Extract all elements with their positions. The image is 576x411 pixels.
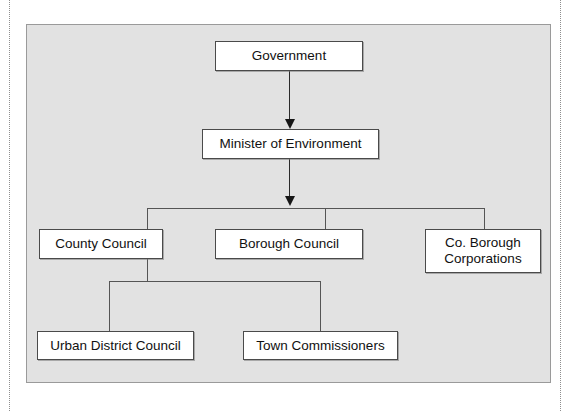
connector-bus-to-town-commissioners (320, 281, 321, 331)
node-borough-council-label: Borough Council (233, 236, 345, 252)
connector-bus-to-borough-council (325, 208, 326, 229)
connector-bus-level3 (109, 281, 320, 282)
figure-panel: Government Minister of Environment Count… (26, 24, 551, 383)
node-borough-council[interactable]: Borough Council (215, 229, 363, 259)
connector-bus-to-co-borough-corporations (484, 208, 485, 229)
node-government[interactable]: Government (215, 41, 363, 71)
node-minister-of-environment-label: Minister of Environment (214, 136, 368, 152)
connector-bus-to-urban-district-council (109, 281, 110, 331)
node-county-council-label: County Council (49, 236, 153, 252)
node-co-borough-corporations-label: Co. Borough Corporations (438, 235, 527, 267)
arrowhead-minister-to-bus (285, 196, 295, 206)
connector-government-to-minister (289, 65, 290, 120)
scan-edge-left (9, 0, 10, 411)
connector-bus-to-county-council (147, 208, 148, 229)
node-county-council[interactable]: County Council (39, 229, 163, 259)
scan-edge-right (560, 0, 561, 411)
node-minister-of-environment[interactable]: Minister of Environment (202, 129, 379, 159)
arrowhead-government-to-minister (285, 119, 295, 129)
node-co-borough-corporations[interactable]: Co. Borough Corporations (425, 229, 541, 273)
node-urban-district-council[interactable]: Urban District Council (37, 331, 194, 360)
diagram-page: Government Minister of Environment Count… (0, 0, 576, 411)
connector-county-council-to-bus (147, 259, 148, 281)
connector-minister-to-bus (289, 159, 290, 197)
connector-bus-level2 (147, 208, 484, 209)
node-government-label: Government (246, 48, 332, 64)
node-town-commissioners-label: Town Commissioners (250, 338, 390, 354)
node-town-commissioners[interactable]: Town Commissioners (243, 331, 398, 360)
node-urban-district-council-label: Urban District Council (44, 338, 187, 354)
